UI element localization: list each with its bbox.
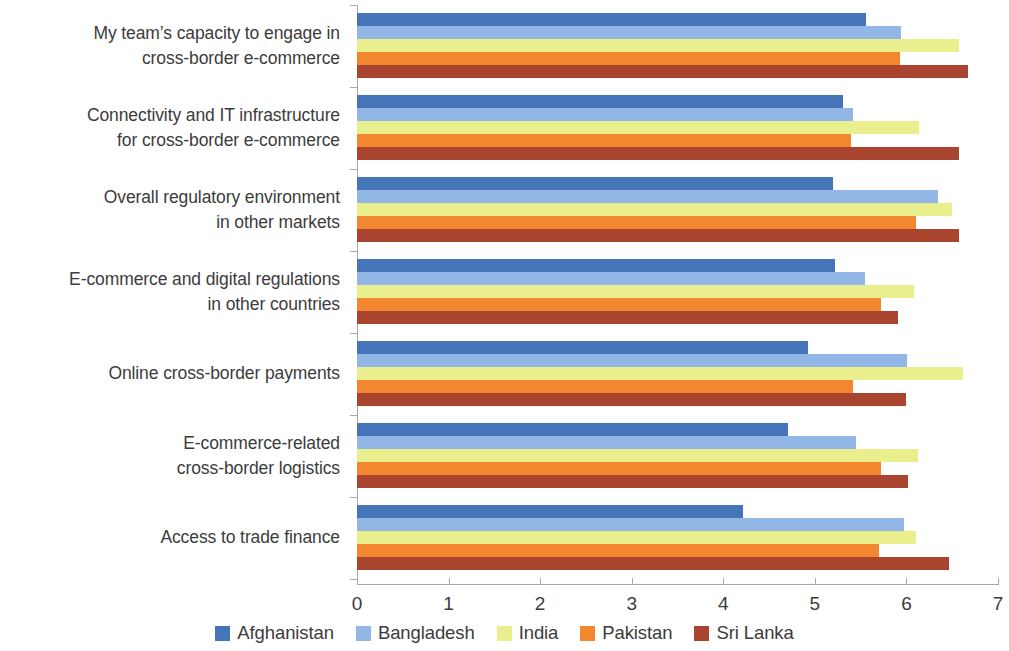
legend-label: Pakistan bbox=[602, 622, 672, 644]
category-label: Overall regulatory environment in other … bbox=[104, 185, 340, 235]
bar-sri-lanka bbox=[357, 229, 959, 242]
bar-group bbox=[357, 341, 998, 406]
bar-bangladesh bbox=[357, 436, 856, 449]
x-axis-tick bbox=[632, 578, 633, 585]
bar-sri-lanka bbox=[357, 475, 908, 488]
bar-india bbox=[357, 367, 963, 380]
bar-india bbox=[357, 203, 952, 216]
bar-sri-lanka bbox=[357, 147, 959, 160]
legend-swatch-icon bbox=[215, 626, 230, 641]
bar-afghanistan bbox=[357, 505, 743, 518]
bar-india bbox=[357, 531, 916, 544]
legend-label: Sri Lanka bbox=[716, 622, 793, 644]
bar-pakistan bbox=[357, 462, 881, 475]
bar-bangladesh bbox=[357, 354, 907, 367]
bar-pakistan bbox=[357, 544, 879, 557]
bar-afghanistan bbox=[357, 95, 843, 108]
y-axis-tick bbox=[350, 415, 357, 416]
bar-bangladesh bbox=[357, 272, 865, 285]
bar-bangladesh bbox=[357, 518, 904, 531]
bar-pakistan bbox=[357, 134, 851, 147]
x-axis-tick bbox=[998, 578, 999, 585]
x-axis-tick-label: 5 bbox=[810, 593, 821, 615]
bar-sri-lanka bbox=[357, 65, 968, 78]
bar-group bbox=[357, 95, 998, 160]
legend-item-pakistan[interactable]: Pakistan bbox=[580, 622, 672, 644]
x-axis-tick-label: 2 bbox=[535, 593, 546, 615]
x-axis-tick bbox=[906, 578, 907, 585]
category-label: Connectivity and IT infrastructure for c… bbox=[87, 103, 340, 153]
bar-pakistan bbox=[357, 52, 900, 65]
category-label: My team’s capacity to engage in cross-bo… bbox=[93, 21, 340, 71]
bar-sri-lanka bbox=[357, 393, 906, 406]
legend-item-afghanistan[interactable]: Afghanistan bbox=[215, 622, 334, 644]
bar-afghanistan bbox=[357, 341, 808, 354]
bar-bangladesh bbox=[357, 26, 901, 39]
x-axis-tick bbox=[449, 578, 450, 585]
x-axis-line bbox=[357, 584, 998, 585]
category-label: Access to trade finance bbox=[160, 525, 340, 550]
bar-bangladesh bbox=[357, 108, 853, 121]
x-axis-tick bbox=[723, 578, 724, 585]
bar-group bbox=[357, 259, 998, 324]
legend-swatch-icon bbox=[694, 626, 709, 641]
x-axis-tick bbox=[815, 578, 816, 585]
bar-pakistan bbox=[357, 216, 916, 229]
x-axis-tick bbox=[540, 578, 541, 585]
bar-chart: My team’s capacity to engage in cross-bo… bbox=[0, 0, 1009, 651]
bar-pakistan bbox=[357, 298, 881, 311]
x-axis-tick bbox=[357, 578, 358, 585]
bar-india bbox=[357, 285, 914, 298]
legend-item-india[interactable]: India bbox=[497, 622, 559, 644]
x-axis-tick-label: 6 bbox=[901, 593, 912, 615]
x-axis-tick-label: 4 bbox=[718, 593, 729, 615]
y-axis-tick bbox=[350, 251, 357, 252]
chart-legend: AfghanistanBangladeshIndiaPakistanSri La… bbox=[0, 622, 1009, 644]
bar-group bbox=[357, 177, 998, 242]
legend-label: Bangladesh bbox=[378, 622, 475, 644]
bar-india bbox=[357, 39, 959, 52]
bar-afghanistan bbox=[357, 423, 788, 436]
legend-item-sri-lanka[interactable]: Sri Lanka bbox=[694, 622, 793, 644]
legend-swatch-icon bbox=[497, 626, 512, 641]
legend-swatch-icon bbox=[356, 626, 371, 641]
x-axis-tick-label: 7 bbox=[993, 593, 1004, 615]
bar-group bbox=[357, 423, 998, 488]
bar-group bbox=[357, 13, 998, 78]
category-label: E-commerce and digital regulations in ot… bbox=[69, 267, 340, 317]
bar-afghanistan bbox=[357, 259, 835, 272]
plot-area: 01234567 bbox=[357, 5, 998, 585]
category-axis-labels: My team’s capacity to engage in cross-bo… bbox=[0, 0, 348, 585]
legend-label: Afghanistan bbox=[237, 622, 334, 644]
bar-afghanistan bbox=[357, 177, 833, 190]
y-axis-tick bbox=[350, 497, 357, 498]
bar-afghanistan bbox=[357, 13, 866, 26]
y-axis-tick bbox=[350, 169, 357, 170]
category-label: Online cross-border payments bbox=[108, 361, 340, 386]
legend-label: India bbox=[519, 622, 559, 644]
legend-item-bangladesh[interactable]: Bangladesh bbox=[356, 622, 475, 644]
category-label: E-commerce-related cross-border logistic… bbox=[177, 431, 340, 481]
y-axis-tick bbox=[350, 87, 357, 88]
bar-bangladesh bbox=[357, 190, 938, 203]
bar-group bbox=[357, 505, 998, 570]
bar-india bbox=[357, 121, 919, 134]
y-axis-tick bbox=[350, 5, 357, 6]
x-axis-tick-label: 1 bbox=[443, 593, 454, 615]
bar-pakistan bbox=[357, 380, 853, 393]
x-axis-tick-label: 3 bbox=[626, 593, 637, 615]
legend-swatch-icon bbox=[580, 626, 595, 641]
y-axis-tick bbox=[350, 333, 357, 334]
y-axis-tick bbox=[350, 579, 357, 580]
bar-sri-lanka bbox=[357, 557, 949, 570]
x-axis-tick-label: 0 bbox=[352, 593, 363, 615]
bar-india bbox=[357, 449, 918, 462]
bar-sri-lanka bbox=[357, 311, 898, 324]
